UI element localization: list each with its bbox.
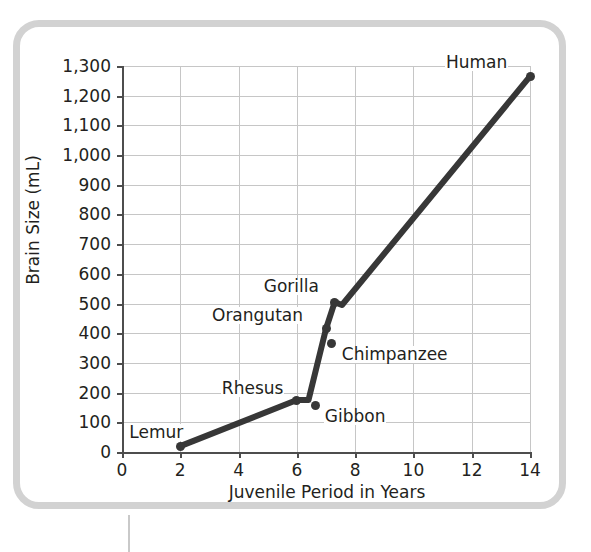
data-point-label-gibbon: Gibbon bbox=[324, 408, 387, 425]
data-point-label-gorilla: Gorilla bbox=[263, 278, 320, 295]
data-point-rhesus bbox=[292, 396, 301, 405]
data-point-label-orangutan: Orangutan bbox=[211, 307, 304, 324]
data-point-orangutan bbox=[322, 324, 331, 333]
data-point-label-chimpanzee: Chimpanzee bbox=[341, 346, 449, 363]
brain-size-vs-juvenile-period-chart: 01002003004005006007008009001,0001,1001,… bbox=[0, 0, 591, 552]
data-point-label-lemur: Lemur bbox=[128, 424, 184, 441]
data-point-human bbox=[526, 72, 535, 81]
data-point-label-human: Human bbox=[445, 54, 508, 71]
data-point-gorilla bbox=[330, 298, 339, 307]
data-point-lemur bbox=[176, 442, 185, 451]
data-point-label-rhesus: Rhesus bbox=[221, 380, 285, 397]
y-axis-title: Brain Size (mL) bbox=[23, 125, 43, 315]
x-axis-title: Juvenile Period in Years bbox=[122, 482, 532, 502]
